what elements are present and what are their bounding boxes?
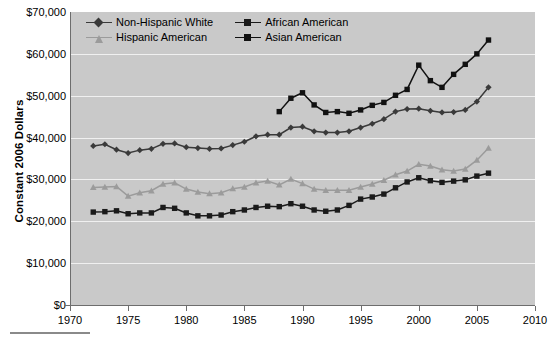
series-1 bbox=[90, 84, 491, 156]
legend-item-label: African American bbox=[265, 16, 348, 28]
x-axis-tick-mark bbox=[477, 306, 478, 311]
series-3 bbox=[90, 145, 492, 199]
legend-item: African American bbox=[235, 16, 348, 28]
legend-marker-square-icon bbox=[235, 32, 261, 43]
x-axis-tick-mark bbox=[303, 306, 304, 311]
x-axis-tick-mark bbox=[70, 306, 71, 311]
series-layer bbox=[70, 12, 535, 305]
legend-item-label: Asian American bbox=[265, 31, 341, 43]
plot-area bbox=[70, 12, 535, 305]
y-axis-tick-label: $60,000 bbox=[6, 48, 66, 60]
legend-item: Hispanic American bbox=[86, 31, 213, 43]
chart-legend: Non-Hispanic WhiteAfrican AmericanHispan… bbox=[86, 16, 348, 43]
x-axis-tick-label: 2005 bbox=[465, 314, 489, 326]
y-axis-tick-label: $20,000 bbox=[6, 215, 66, 227]
legend-marker-diamond-icon bbox=[86, 17, 112, 28]
x-axis-tick-label: 1990 bbox=[290, 314, 314, 326]
x-axis-tick-label: 1975 bbox=[116, 314, 140, 326]
legend-marker-triangle-icon bbox=[86, 32, 112, 43]
y-axis-tick-label: $70,000 bbox=[6, 6, 66, 18]
legend-item: Non-Hispanic White bbox=[86, 16, 213, 28]
x-axis-tick-label: 1985 bbox=[232, 314, 256, 326]
footer-rule bbox=[10, 332, 90, 334]
x-axis-tick-mark bbox=[128, 306, 129, 311]
legend-item-label: Hispanic American bbox=[116, 31, 207, 43]
y-axis-tick-label: $30,000 bbox=[6, 173, 66, 185]
x-axis-tick-label: 2000 bbox=[407, 314, 431, 326]
x-axis-tick-label: 1970 bbox=[58, 314, 82, 326]
y-axis-tick-label: $40,000 bbox=[6, 132, 66, 144]
x-axis-tick-label: 1995 bbox=[348, 314, 372, 326]
x-axis-tick-label: 2010 bbox=[523, 314, 547, 326]
y-axis-tick-labels: $0$10,000$20,000$30,000$40,000$50,000$60… bbox=[4, 0, 66, 341]
legend-marker-square-icon bbox=[235, 17, 261, 28]
y-axis-tick-label: $0 bbox=[6, 299, 66, 311]
x-axis-tick-mark bbox=[361, 306, 362, 311]
x-axis-tick-mark bbox=[535, 306, 536, 311]
y-axis-tick-label: $50,000 bbox=[6, 90, 66, 102]
y-axis-line bbox=[70, 12, 71, 306]
x-axis-tick-label: 1980 bbox=[174, 314, 198, 326]
x-axis-tick-mark bbox=[419, 306, 420, 311]
legend-item-label: Non-Hispanic White bbox=[116, 16, 213, 28]
y-axis-tick-label: $10,000 bbox=[6, 257, 66, 269]
legend-item: Asian American bbox=[235, 31, 348, 43]
x-axis-line bbox=[64, 305, 535, 306]
series-4 bbox=[277, 37, 492, 116]
x-axis-tick-mark bbox=[244, 306, 245, 311]
x-axis-tick-mark bbox=[186, 306, 187, 311]
chart-container: Constant 2006 Dollars $0$10,000$20,000$3… bbox=[0, 0, 548, 341]
